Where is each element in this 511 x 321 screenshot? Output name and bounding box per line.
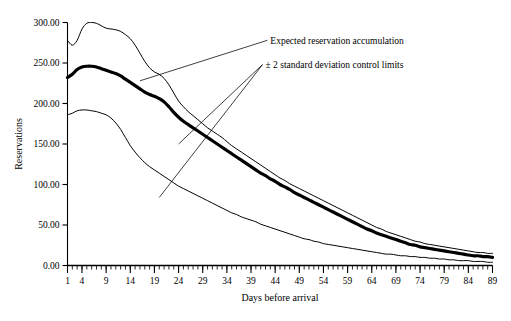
control-limits-annotation-leader: [179, 65, 263, 144]
x-tick-label: 19: [150, 276, 160, 286]
y-tick-labels: 0.0050.00100.00150.00200.00250.00300.00: [33, 18, 59, 271]
x-tick-label: 39: [246, 276, 256, 286]
annotation-texts: Expected reservation accumulation± 2 sta…: [266, 36, 405, 70]
x-tick-label: 59: [343, 276, 353, 286]
y-tick-label: 250.00: [33, 58, 59, 68]
x-tick-label: 14: [126, 276, 136, 286]
x-tick-label: 34: [222, 276, 232, 286]
series-lines: [68, 22, 493, 262]
y-axis-title: Reservations: [13, 118, 24, 170]
y-tick-label: 150.00: [33, 139, 59, 149]
x-tick-label: 89: [488, 276, 498, 286]
x-tick-label: 54: [319, 276, 329, 286]
control-limit-line: [68, 22, 493, 253]
control-limits-annotation-leader: [159, 65, 262, 198]
y-tick-label: 200.00: [33, 99, 59, 109]
y-tick-label: 300.00: [33, 18, 59, 28]
expected-accumulation-annotation-leader: [140, 40, 267, 81]
x-tick-label: 84: [464, 276, 474, 286]
x-tick-label: 1: [65, 276, 70, 286]
x-tick-label: 9: [104, 276, 109, 286]
x-tick-label: 64: [367, 276, 377, 286]
x-tick-label: 24: [174, 276, 184, 286]
y-tick-label: 50.00: [38, 220, 60, 230]
control-limits-annotation: ± 2 standard deviation control limits: [266, 60, 404, 70]
x-tick-label: 79: [439, 276, 449, 286]
x-tick-labels: 14914192429343944495459646974798489: [65, 276, 497, 286]
y-tick-label: 100.00: [33, 180, 59, 190]
annotation-leader-lines: [140, 40, 267, 197]
x-tick-label: 49: [295, 276, 305, 286]
x-tick-label: 29: [198, 276, 208, 286]
x-tick-label: 44: [270, 276, 280, 286]
chart-figure: 0.0050.00100.00150.00200.00250.00300.00 …: [0, 0, 511, 321]
reservation-accumulation-chart: 0.0050.00100.00150.00200.00250.00300.00 …: [0, 0, 511, 321]
x-axis-title: Days before arrival: [241, 292, 318, 303]
x-tick-label: 4: [80, 276, 85, 286]
x-tick-label: 74: [415, 276, 425, 286]
expected-accumulation-annotation: Expected reservation accumulation: [270, 36, 404, 46]
y-tick-label: 0.00: [43, 261, 60, 271]
expected-accumulation-line: [68, 66, 493, 257]
x-tick-label: 69: [391, 276, 401, 286]
